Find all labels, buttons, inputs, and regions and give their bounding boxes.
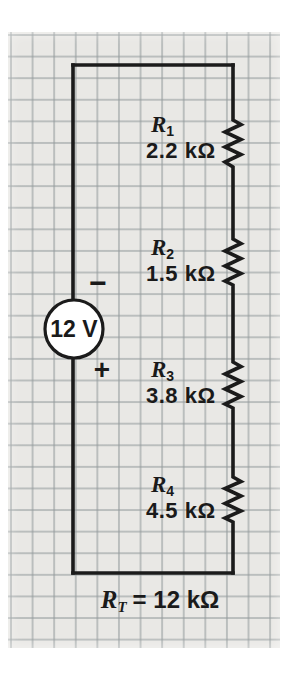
resistor-4-value: 4.5 kΩ <box>146 498 236 524</box>
resistor-4-label: R4 4.5 kΩ <box>146 471 236 524</box>
circuit-figure: 12 V − + R1 2.2 kΩ R2 1.5 kΩ R3 3.8 kΩ R… <box>0 0 286 677</box>
polarity-plus-sign: + <box>91 355 113 385</box>
resistor-2-name: R2 <box>146 234 236 261</box>
resistor-4-name: R4 <box>146 471 236 498</box>
circuit-diagram <box>0 0 286 677</box>
resistor-3-name: R3 <box>146 356 236 383</box>
resistor-3-value: 3.8 kΩ <box>146 383 236 409</box>
polarity-minus-sign: − <box>87 268 109 298</box>
resistor-2-value: 1.5 kΩ <box>146 261 236 287</box>
voltage-source-label: 12 V <box>44 316 104 343</box>
resistor-3-label: R3 3.8 kΩ <box>146 356 236 409</box>
resistor-1-label: R1 2.2 kΩ <box>146 111 236 164</box>
resistor-1-value: 2.2 kΩ <box>146 138 236 164</box>
resistor-2-label: R2 1.5 kΩ <box>146 234 236 287</box>
total-resistance-label: RT= 12 kΩ <box>60 586 260 614</box>
resistor-1-name: R1 <box>146 111 236 138</box>
